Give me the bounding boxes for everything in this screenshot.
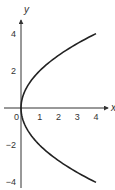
x-tick-label: 1 xyxy=(37,112,42,122)
y-tick-label: −2 xyxy=(6,140,16,150)
parabola-chart: 0123442−2−4 x y xyxy=(0,0,115,190)
y-tick-label: 2 xyxy=(11,66,16,76)
y-tick-label: 4 xyxy=(11,29,16,39)
x-tick-label: 2 xyxy=(56,112,61,122)
x-tick-label: 4 xyxy=(94,112,99,122)
x-tick-label: 3 xyxy=(75,112,80,122)
y-tick-label: −4 xyxy=(6,177,16,187)
x-tick-label: 0 xyxy=(14,112,19,122)
x-axis-label: x xyxy=(110,102,115,113)
y-axis-label: y xyxy=(23,4,30,15)
